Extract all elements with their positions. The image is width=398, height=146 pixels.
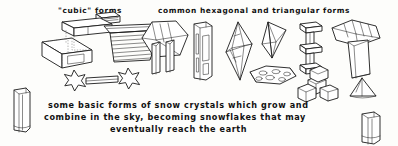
figure-hex-column-tall [194,22,212,80]
figure-column-right [362,112,380,144]
figure-column-left [14,88,30,132]
snow-crystal-illustration: "cubic" forms common hexagonal and trian… [0,0,398,146]
caption-line-2: combine in the sky, becoming snowflakes … [44,112,306,122]
caption-line-3: eventually reach the earth [110,124,247,134]
hexagonal-forms-title: common hexagonal and triangular forms [158,6,350,15]
caption-line-1: some basic forms of snow crystals which … [48,100,309,110]
